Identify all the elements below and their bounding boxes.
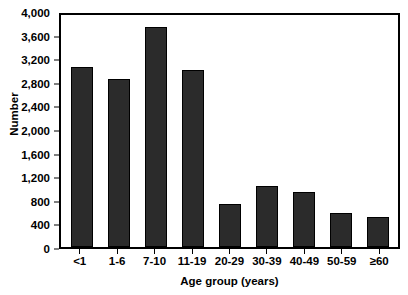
x-axis-tick-mark [192,249,193,254]
x-axis-category-label: 30-39 [248,255,285,273]
x-axis-category-label: 7-10 [136,255,173,273]
y-axis-tick-label: 3,600 [21,31,50,43]
bar-slot [174,15,211,247]
x-axis-category-label: 50-59 [323,255,360,273]
x-axis-tick-mark [229,249,230,254]
x-axis-category-label: <1 [61,255,98,273]
bar-slot [137,15,174,247]
bar-slot [248,15,285,247]
bar [256,186,278,247]
y-axis-tick-label: 400 [31,219,50,231]
y-axis-tick-label: 1,600 [21,149,50,161]
bar [219,204,241,248]
y-axis-tick-label: 0 [44,243,50,255]
x-axis-tick-labels: <11-67-1011-1920-2930-3940-4950-59≥60 [59,255,400,273]
bar-slot [359,15,396,247]
y-axis-tick-label: 1,200 [21,172,50,184]
bar [330,213,352,247]
bar-slot [63,15,100,247]
y-axis-tick-label: 4,000 [21,7,50,19]
x-axis-tick-mark [341,249,342,254]
bar-chart-figure: Number 04008001,2001,6002,0002,4002,8003… [0,0,408,295]
bar [293,192,315,247]
y-axis-tick-label: 2,400 [21,101,50,113]
bar-series [61,15,398,247]
bar-slot [100,15,137,247]
x-axis-tick-mark [266,249,267,254]
bar-slot [211,15,248,247]
y-axis-tick-label: 2,000 [21,125,50,137]
bar [182,70,204,247]
y-axis-tick-label: 800 [31,196,50,208]
x-axis-tick-mark [117,249,118,254]
bar [71,67,93,247]
x-axis-title: Age group (years) [59,275,400,287]
x-axis-category-label: 1-6 [98,255,135,273]
x-axis-tick-mark [379,249,380,254]
y-axis-tick-labels: 04008001,2001,6002,0002,4002,8003,2003,6… [0,0,54,295]
y-axis-tick-label: 2,800 [21,78,50,90]
x-axis-tick-mark [304,249,305,254]
bar-slot [322,15,359,247]
y-axis-tick-label: 3,200 [21,54,50,66]
bar [367,217,389,247]
bar-slot [285,15,322,247]
x-axis-tick-mark [154,249,155,254]
plot-area [59,13,400,249]
x-axis-category-label: ≥60 [361,255,398,273]
x-axis-category-label: 11-19 [173,255,210,273]
x-axis-tick-mark [79,249,80,254]
bar [108,79,130,247]
x-axis-category-label: 40-49 [286,255,323,273]
bar [145,27,167,247]
x-axis-category-label: 20-29 [211,255,248,273]
